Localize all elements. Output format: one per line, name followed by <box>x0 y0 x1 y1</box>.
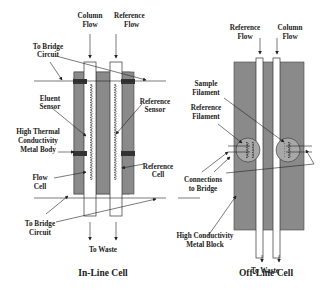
label-flow-cell-1: Flow <box>32 174 48 182</box>
label-reference-sensor-1: Reference <box>140 98 171 106</box>
label-sample-filament-2: Filament <box>192 89 220 97</box>
label-reference-flow-1: Reference <box>114 12 145 20</box>
label-reference-sensor-2: Sensor <box>145 106 167 114</box>
label-column-flow-2: Flow <box>282 33 298 41</box>
label-metal-block-1: High Conductivity <box>177 232 234 240</box>
label-connections-1: Connections <box>184 176 222 184</box>
in-line-cell: Column Flow Reference Flow To Bridge Cir… <box>16 12 173 278</box>
label-reference-filament-2: Filament <box>192 113 220 121</box>
label-column-flow-1: Column <box>278 24 303 32</box>
thermal-conductivity-cell-diagram: Column Flow Reference Flow To Bridge Cir… <box>0 0 334 290</box>
label-reference-filament-1: Reference <box>191 104 222 112</box>
label-metal-body-2: Conductivity <box>18 137 58 145</box>
label-eluent-sensor-1: Eluent <box>40 95 61 103</box>
off-line-cell: Reference Flow Column Flow Sample Filame… <box>177 24 314 278</box>
label-column-flow-2: Flow <box>82 21 98 29</box>
label-to-bridge-top-2: Circuit <box>37 51 59 59</box>
label-reference-flow-1: Reference <box>230 24 261 32</box>
label-to-bridge-bottom-1: To Bridge <box>25 220 55 228</box>
label-to-waste-in-line: To Waste <box>89 246 117 254</box>
label-sample-filament-1: Sample <box>195 80 218 88</box>
label-reference-flow-2: Flow <box>124 21 140 29</box>
label-flow-cell-2: Cell <box>34 183 46 191</box>
label-metal-block-2: Metal Block <box>186 241 223 249</box>
label-reference-cell-2: Cell <box>152 171 164 179</box>
caption-in-line-cell: In-Line Cell <box>78 268 128 278</box>
reference-sensor-coil <box>113 84 120 180</box>
eluent-sensor-coil <box>87 84 94 180</box>
label-to-bridge-bottom-2: Circuit <box>29 229 51 237</box>
label-column-flow-1: Column <box>78 12 103 20</box>
label-metal-body-3: Metal Body <box>20 146 56 154</box>
label-eluent-sensor-2: Sensor <box>40 103 62 111</box>
label-reference-flow-2: Flow <box>237 33 253 41</box>
label-metal-body-1: High Thermal <box>16 128 60 136</box>
caption-off-line-cell: Off-Line Cell <box>239 268 293 278</box>
label-connections-2: to Bridge <box>189 185 218 193</box>
label-to-bridge-top-1: To Bridge <box>33 43 63 51</box>
label-reference-cell-1: Reference <box>143 163 174 171</box>
